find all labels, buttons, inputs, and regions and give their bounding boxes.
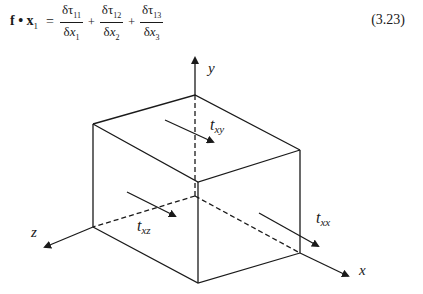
txz-label: txz — [137, 217, 151, 236]
hidden-edges — [93, 95, 300, 253]
x-axis-label: x — [358, 262, 366, 278]
txx-label: txx — [316, 209, 330, 228]
txy-label: txy — [210, 116, 224, 135]
y-axis-label: y — [206, 60, 215, 76]
z-axis-label: z — [30, 224, 37, 240]
txx-stress-arrow — [259, 213, 318, 246]
top-front-edges — [93, 124, 300, 182]
x-axis-arrow — [300, 253, 348, 276]
stress-cube-diagram: y z x txy txz txx — [0, 0, 423, 294]
txy-stress-arrow — [165, 120, 213, 142]
z-axis-arrow — [45, 227, 93, 247]
bottom-edges — [93, 227, 300, 283]
